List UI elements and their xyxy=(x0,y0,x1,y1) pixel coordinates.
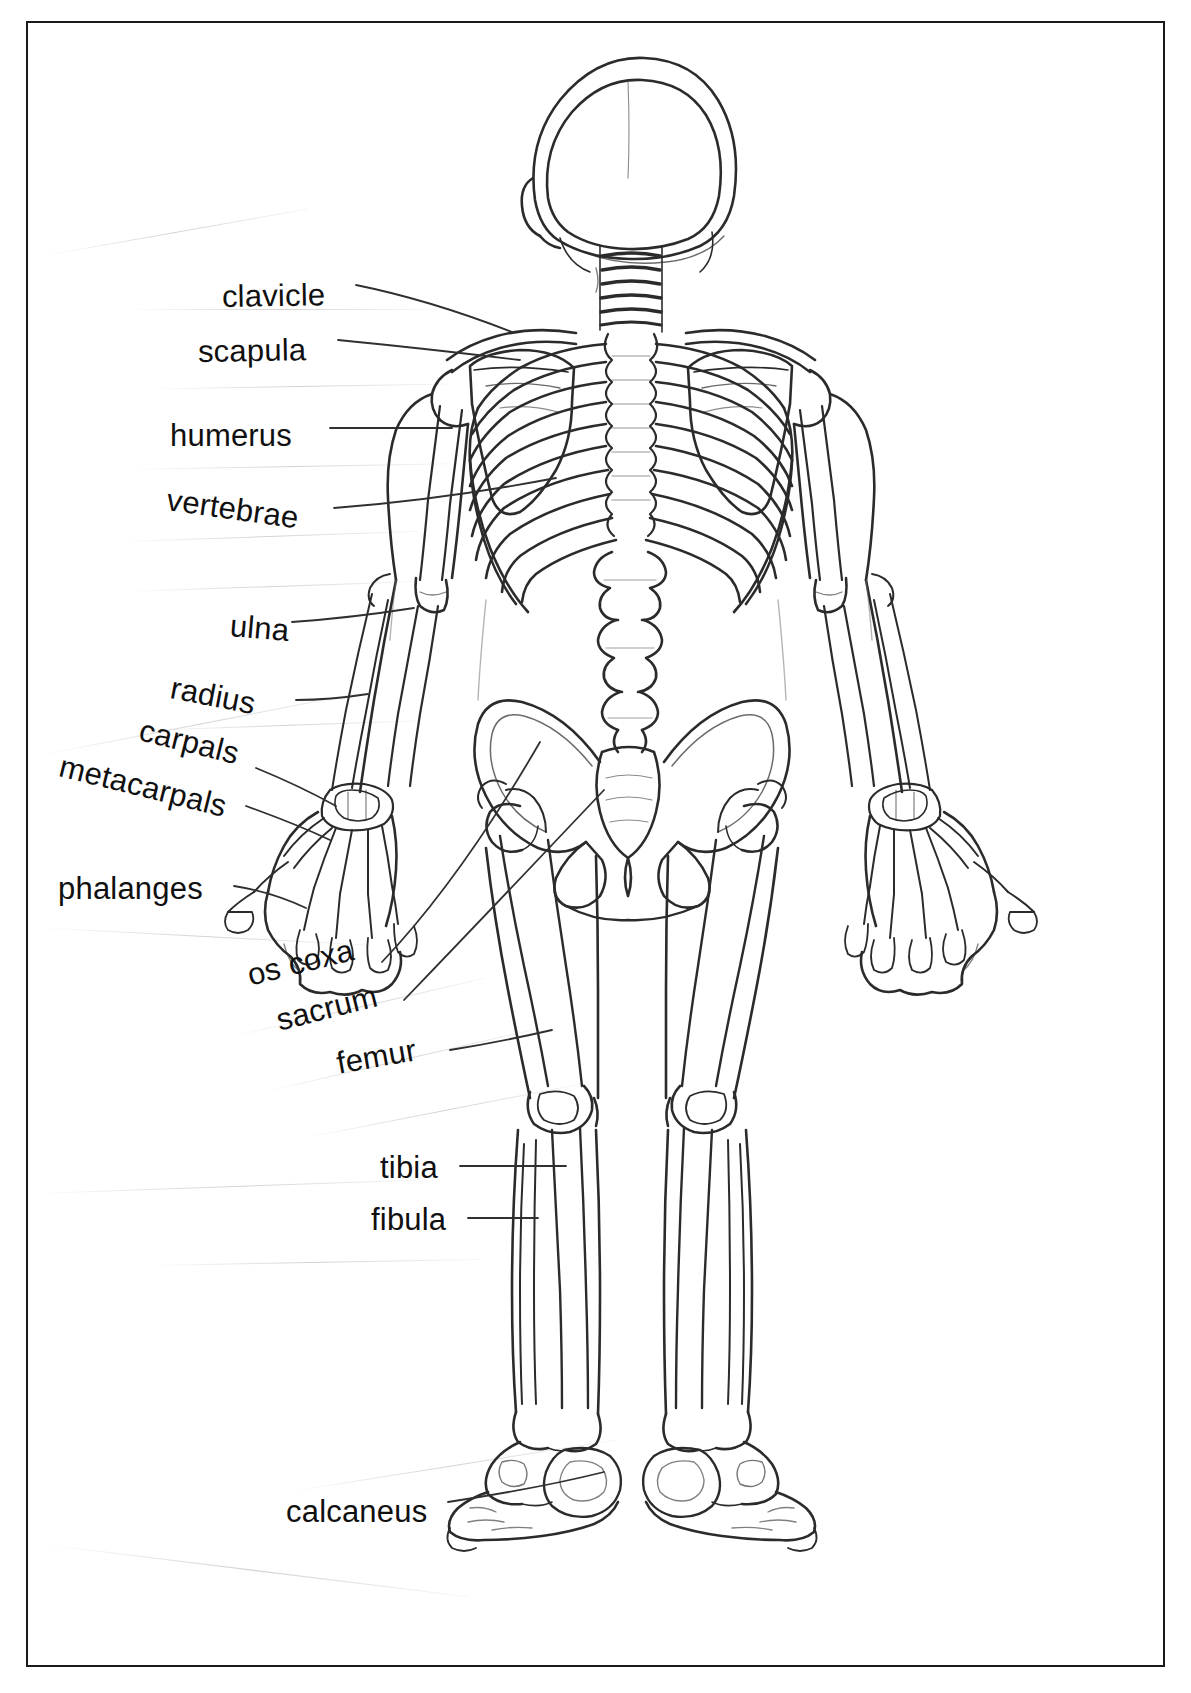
label-calcaneus: calcaneus xyxy=(286,1494,427,1530)
label-scapula: scapula xyxy=(198,332,307,370)
page-border xyxy=(26,21,1165,1667)
label-phalanges: phalanges xyxy=(58,871,203,907)
label-humerus: humerus xyxy=(170,418,292,454)
label-tibia: tibia xyxy=(380,1150,438,1186)
label-fibula: fibula xyxy=(371,1202,446,1238)
label-ulna: ulna xyxy=(228,608,290,649)
label-clavicle: clavicle xyxy=(222,277,326,315)
worksheet-page: clavicle scapula humerus vertebrae ulna … xyxy=(0,0,1191,1693)
